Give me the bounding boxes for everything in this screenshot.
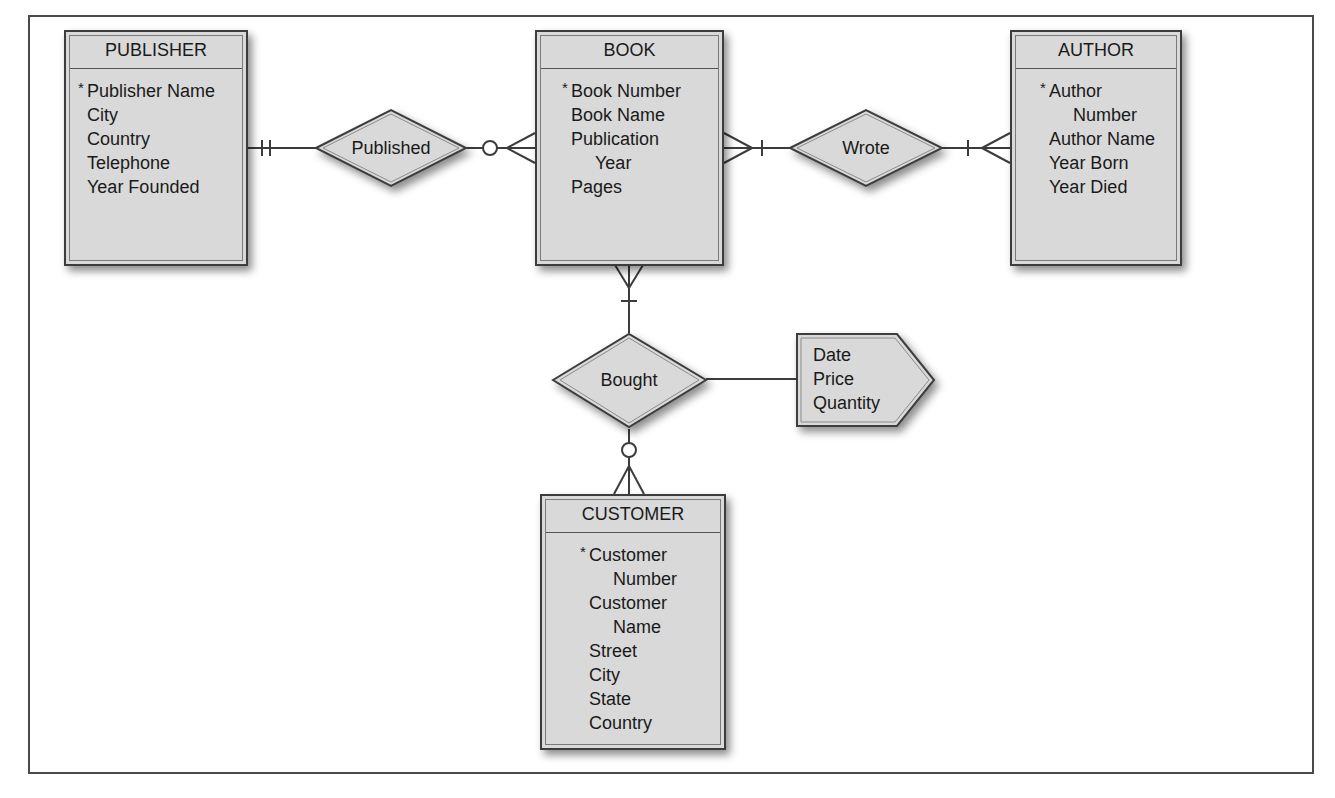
entity-title: CUSTOMER <box>546 496 720 533</box>
entity-title: AUTHOR <box>1016 32 1176 69</box>
entity-title: PUBLISHER <box>70 32 242 69</box>
attribute: City <box>589 663 724 687</box>
attribute: Price <box>813 367 880 391</box>
attribute: Year Founded <box>87 175 246 199</box>
attribute: Year Born <box>1049 151 1180 175</box>
attribute-continuation: Number <box>1049 103 1180 127</box>
attribute: Publication <box>571 127 722 151</box>
attribute: Telephone <box>87 151 246 175</box>
relationship-attributes[interactable]: Date Price Quantity <box>813 343 880 415</box>
attribute-continuation: Number <box>589 567 724 591</box>
entity-customer[interactable]: CUSTOMER Customer Number Customer Name S… <box>540 494 726 750</box>
relationship-bought[interactable]: Bought <box>569 370 689 391</box>
relationship-published[interactable]: Published <box>331 138 451 159</box>
attribute: Pages <box>571 175 722 199</box>
attribute: Quantity <box>813 391 880 415</box>
attribute: City <box>87 103 246 127</box>
attribute-key: Author <box>1049 79 1180 103</box>
attribute: Street <box>589 639 724 663</box>
relationship-wrote[interactable]: Wrote <box>806 138 926 159</box>
attribute: Customer <box>589 591 724 615</box>
entity-title: BOOK <box>541 32 718 69</box>
entity-book[interactable]: BOOK Book Number Book Name Publication Y… <box>535 30 724 266</box>
attribute: Country <box>589 711 724 735</box>
attribute: State <box>589 687 724 711</box>
attribute-key: Customer <box>589 543 724 567</box>
attribute: Year Died <box>1049 175 1180 199</box>
entity-author[interactable]: AUTHOR Author Number Author Name Year Bo… <box>1010 30 1182 266</box>
attribute-key: Publisher Name <box>87 79 246 103</box>
attribute: Author Name <box>1049 127 1180 151</box>
attribute-continuation: Name <box>589 615 724 639</box>
attribute: Book Name <box>571 103 722 127</box>
attribute-key: Book Number <box>571 79 722 103</box>
attribute: Date <box>813 343 880 367</box>
entity-publisher[interactable]: PUBLISHER Publisher Name City Country Te… <box>64 30 248 266</box>
attribute-continuation: Year <box>571 151 722 175</box>
attribute: Country <box>87 127 246 151</box>
